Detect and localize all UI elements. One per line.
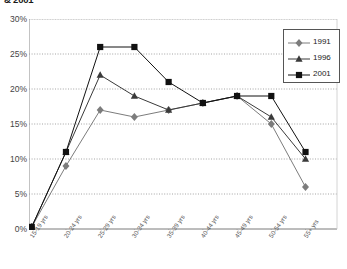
x-tick-label: 55+ yrs: [302, 218, 320, 239]
x-tick-label: 35-39 yrs: [165, 213, 186, 239]
x-tick-label: 25-29 yrs: [96, 213, 117, 239]
legend-label: 1996: [311, 53, 331, 62]
x-tick-label: 20-24 yrs: [62, 213, 83, 239]
legend-item-2001: 2001: [287, 65, 337, 81]
legend-item-1991: 1991: [287, 33, 337, 49]
x-tick-label: 45-49 yrs: [233, 213, 254, 239]
x-tick-label: 15-19 yrs: [28, 213, 49, 239]
x-tick-label: 40-44 yrs: [199, 213, 220, 239]
legend-marker-diamond-icon: [287, 35, 311, 47]
legend-label: 2001: [311, 69, 331, 78]
data-point-diamond: [296, 39, 303, 47]
data-point-square: [296, 72, 302, 78]
legend-marker-square-icon: [287, 67, 311, 79]
chart-legend: 199119962001: [283, 29, 340, 83]
legend-marker-triangle-icon: [287, 51, 311, 63]
legend-item-1996: 1996: [287, 49, 337, 65]
legend-label: 1991: [311, 37, 331, 46]
x-tick-label: 50-54 yrs: [267, 213, 288, 239]
x-tick-label: 30-34 yrs: [130, 213, 151, 239]
